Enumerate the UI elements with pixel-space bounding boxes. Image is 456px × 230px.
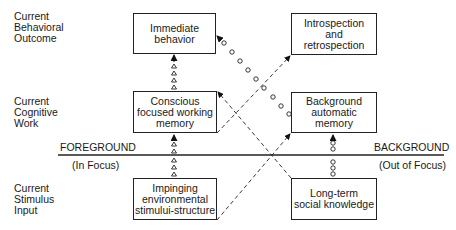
triangle-chain-conscious-to-immediate <box>172 64 177 89</box>
background-label: BACKGROUND <box>374 142 449 153</box>
box-text: memory <box>156 118 194 129</box>
foreground-sublabel: (In Focus) <box>72 160 119 171</box>
dashed-arrow-impinging-to-background <box>217 134 290 220</box>
box-conscious-focused-working-memory: Conscious focused working memory <box>133 91 217 133</box>
connector-layer <box>0 0 456 230</box>
box-long-term-social-knowledge: Long-term social knowledge <box>291 178 377 220</box>
box-text: focused working <box>137 107 213 118</box>
box-impinging-environmental-stimuli: Impinging environmental stimului-structu… <box>133 178 217 220</box>
box-background-automatic-memory: Background automatic memory <box>291 92 377 133</box>
box-text: stimului-structure <box>135 205 215 216</box>
box-text: Introspection <box>304 18 364 29</box>
box-text: behavior <box>154 34 194 45</box>
box-text: Immediate <box>150 23 199 34</box>
triangle-chain-impinging-to-conscious <box>172 142 177 176</box>
background-sublabel: (Out of Focus) <box>379 160 446 171</box>
circle-chain-background-to-immediate <box>222 41 291 116</box>
arrowhead-into-immediate <box>217 36 221 40</box>
box-text: environmental <box>142 194 208 205</box>
foreground-label: FOREGROUND <box>60 142 136 153</box>
box-text: and <box>325 29 343 40</box>
dashed-arrow-conscious-to-introspection <box>217 56 290 133</box>
box-text: Impinging <box>152 183 198 194</box>
box-text: social knowledge <box>294 199 374 210</box>
box-text: Conscious <box>150 96 199 107</box>
box-immediate-behavior: Immediate behavior <box>133 13 216 54</box>
box-text: memory <box>315 118 353 129</box>
box-text: retrospection <box>304 40 365 51</box>
circle-chain-longterm-to-background <box>331 141 335 176</box>
box-introspection-retrospection: Introspection and retrospection <box>291 13 377 55</box>
